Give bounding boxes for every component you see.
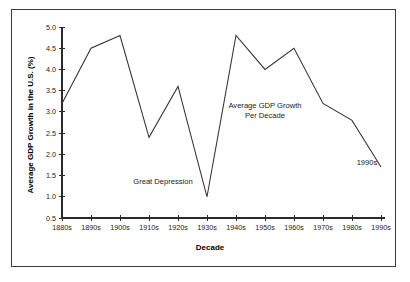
x-tick-label: 1930s — [197, 223, 217, 232]
y-axis-tick-labels: 0.51.01.52.02.53.03.54.04.55.0 — [46, 23, 56, 223]
x-tick-label: 1890s — [81, 223, 101, 232]
x-tick-label: 1880s — [52, 223, 72, 232]
annotation-series-label-line1: Average GDP Growth — [228, 101, 301, 110]
y-tick-label: 0.5 — [46, 214, 56, 223]
x-tick-label: 1960s — [284, 223, 304, 232]
y-tick-label: 3.0 — [46, 107, 56, 116]
y-tick-label: 4.0 — [46, 65, 56, 74]
y-tick-label: 1.5 — [46, 171, 56, 180]
y-axis-title: Average GDP Growth in the U.S. (%) — [26, 56, 35, 193]
y-tick-label: 3.5 — [46, 86, 56, 95]
annotation-great-depression: Great Depression — [133, 177, 193, 186]
line-chart: 0.51.01.52.02.53.03.54.04.55.0 1880s1890… — [0, 0, 410, 282]
x-tick-label: 1920s — [168, 223, 188, 232]
x-tick-label: 1950s — [255, 223, 275, 232]
y-tick-label: 2.5 — [46, 129, 56, 138]
x-tick-label: 1940s — [226, 223, 246, 232]
chart-figure: 0.51.01.52.02.53.03.54.04.55.0 1880s1890… — [0, 0, 410, 282]
x-tick-label: 1900s — [110, 223, 130, 232]
x-tick-label: 1910s — [139, 223, 159, 232]
y-tick-label: 2.0 — [46, 150, 56, 159]
annotation-last-point-1990s: 1990s — [357, 158, 378, 167]
x-axis-tick-labels: 1880s1890s1900s1910s1920s1930s1940s1950s… — [52, 223, 391, 232]
y-tick-label: 4.5 — [46, 44, 56, 53]
y-tick-label: 1.0 — [46, 192, 56, 201]
annotation-series-label-line2: Per Decade — [245, 111, 285, 120]
gdp-growth-series-line — [62, 35, 381, 196]
x-tick-label: 1970s — [313, 223, 333, 232]
x-tick-label: 1990s — [371, 223, 391, 232]
x-tick-label: 1980s — [342, 223, 362, 232]
y-tick-label: 5.0 — [46, 23, 56, 32]
x-axis-title: Decade — [196, 243, 225, 252]
